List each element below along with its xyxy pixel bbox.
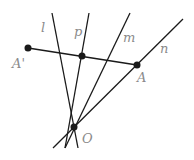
geometry-diagram: lpmnA'AO [0, 0, 194, 160]
point-label-A: A [136, 70, 146, 85]
points-group [25, 45, 141, 131]
point-A [134, 62, 141, 69]
point-label-A_prime: A' [11, 56, 25, 71]
lines-group [28, 13, 183, 148]
point-P [79, 53, 86, 60]
line-label-n: n [160, 41, 168, 56]
line-label-l: l [41, 20, 45, 35]
point-A_prime [25, 45, 32, 52]
point-label-O: O [82, 131, 93, 146]
line-label-p: p [74, 24, 83, 39]
point-O [71, 124, 78, 131]
labels-group: lpmnA'AO [11, 20, 168, 146]
line-label-m: m [123, 30, 135, 45]
